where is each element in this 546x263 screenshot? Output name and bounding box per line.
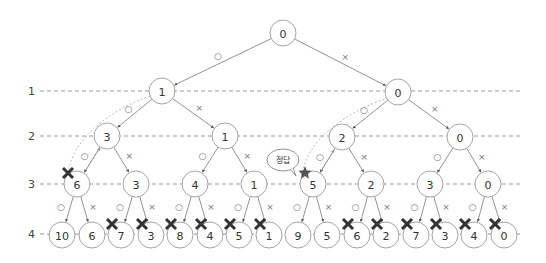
include-label: ○ <box>433 152 441 162</box>
include-label: ○ <box>57 202 65 212</box>
node-value: 2 <box>383 230 390 243</box>
exclude-label: × <box>195 103 203 113</box>
edge-a-ab <box>173 99 214 128</box>
exclude-label: × <box>325 202 333 212</box>
include-label: ○ <box>116 202 124 212</box>
level-label-2: 2 <box>28 130 35 143</box>
node-value: 3 <box>148 230 155 243</box>
tree-node-l9: 9 <box>285 222 311 248</box>
node-value: 0 <box>485 179 492 192</box>
include-label: ○ <box>351 202 359 212</box>
edge-aaa-l2 <box>81 196 88 221</box>
tree-node-aab: 3 <box>123 171 149 197</box>
exclude-label: × <box>266 202 274 212</box>
node-value: 2 <box>368 179 375 192</box>
include-label: ○ <box>360 105 368 115</box>
node-value: 0 <box>280 28 287 41</box>
edge-a-aa <box>118 99 152 127</box>
edge-b-bb <box>409 100 449 129</box>
decision-tree-diagram: 1234 ○×○×○×○×○×○×○×○×○×○×○×○×○×○×○× 0103… <box>0 0 546 263</box>
include-label: ○ <box>175 202 183 212</box>
include-label: ○ <box>198 151 206 161</box>
level-label-1: 1 <box>28 85 35 98</box>
include-label: ○ <box>468 202 476 212</box>
tree-node-r: 0 <box>270 20 296 46</box>
tree-node-b: 0 <box>385 79 411 105</box>
node-value: 2 <box>339 132 346 145</box>
exclude-label: × <box>360 152 368 162</box>
speech-bubble-tail <box>290 168 296 176</box>
edge-baa-l10 <box>316 197 323 222</box>
edge-abb-l8 <box>258 196 265 221</box>
node-value: 7 <box>118 230 125 243</box>
edge-abb-l7 <box>243 196 250 221</box>
edge-bab-l12 <box>375 196 382 221</box>
edge-aba-l6 <box>199 196 206 221</box>
tree-node-l2: 6 <box>79 222 105 248</box>
include-label: ○ <box>234 202 242 212</box>
node-value: 3 <box>104 131 111 144</box>
exclude-label: × <box>442 202 450 212</box>
exclude-label: × <box>207 202 215 212</box>
node-value: 0 <box>457 132 464 145</box>
tree-node-aba: 4 <box>182 171 208 197</box>
edge-aab-l4 <box>140 196 147 221</box>
node-value: 6 <box>354 230 361 243</box>
edge-r-b <box>295 39 386 86</box>
edge-bbb-l15 <box>478 197 485 222</box>
include-label: ○ <box>125 104 133 114</box>
node-value: 6 <box>89 230 96 243</box>
tree-node-l10: 5 <box>314 222 340 248</box>
node-value: 0 <box>501 230 508 243</box>
tree-edges: ○×○×○×○×○×○×○×○×○×○×○×○×○×○×○× <box>57 39 508 222</box>
edge-baa-l9 <box>302 196 309 221</box>
edge-b-ba <box>353 100 388 128</box>
node-value: 5 <box>310 179 317 192</box>
node-value: 6 <box>74 179 81 192</box>
tree-node-a: 1 <box>149 78 175 104</box>
edge-aba-l5 <box>184 196 191 221</box>
answer-callout: 정답 <box>267 149 299 176</box>
tree-node-bb: 0 <box>447 124 473 150</box>
node-value: 4 <box>471 230 478 243</box>
node-value: 0 <box>395 87 402 100</box>
include-label: ○ <box>316 152 324 162</box>
edge-bba-l14 <box>434 196 441 221</box>
tree-node-ba: 2 <box>329 124 355 150</box>
exclude-label: × <box>478 152 486 162</box>
node-value: 4 <box>192 179 199 192</box>
edge-bba-l13 <box>420 197 427 222</box>
exclude-label: × <box>89 202 97 212</box>
tree-node-bab: 2 <box>358 171 384 197</box>
node-value: 9 <box>295 230 302 243</box>
edge-bab-l11 <box>361 197 368 222</box>
node-value: 4 <box>207 230 214 243</box>
node-value: 1 <box>266 230 273 243</box>
node-value: 1 <box>222 131 229 144</box>
edge-aaa-l1 <box>66 196 73 221</box>
tree-node-bba: 3 <box>417 171 443 197</box>
edge-r-a <box>175 39 272 85</box>
node-value: 5 <box>324 230 331 243</box>
node-value: 5 <box>236 230 243 243</box>
edge-bbb-l16 <box>492 196 500 221</box>
node-value: 1 <box>159 86 166 99</box>
include-label: ○ <box>80 151 88 161</box>
tree-nodes: 01031206341523010673845195627340 <box>49 20 517 248</box>
tree-node-abb: 1 <box>241 171 267 197</box>
node-value: 1 <box>251 179 258 192</box>
exclude-label: × <box>243 151 251 161</box>
tree-node-bbb: 0 <box>475 171 501 197</box>
callout-text: 정답 <box>276 155 291 165</box>
node-value: 3 <box>442 230 449 243</box>
node-value: 7 <box>413 230 420 243</box>
exclude-label: × <box>148 202 156 212</box>
exclude-label: × <box>341 52 349 62</box>
tree-node-aa: 3 <box>94 123 120 149</box>
include-label: ○ <box>410 202 418 212</box>
exclude-label: × <box>431 104 439 114</box>
node-value: 3 <box>427 179 434 192</box>
exclude-label: × <box>383 202 391 212</box>
level-label-3: 3 <box>28 178 35 191</box>
edge-aab-l3 <box>125 196 132 221</box>
